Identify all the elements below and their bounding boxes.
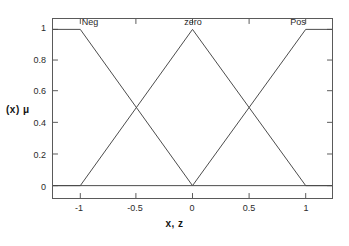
y-tick-label-1: 1 <box>20 23 46 33</box>
y-tick-label-0.6: 0.6 <box>20 86 46 96</box>
x-tick-label-0: 0 <box>189 203 194 213</box>
curve-pos <box>53 29 332 185</box>
curve-label-neg: Neg <box>82 17 99 27</box>
y-tick-label-0.8: 0.8 <box>20 55 46 65</box>
x-tick-label--1: -1 <box>75 203 83 213</box>
y-axis-title: (x) μ <box>6 104 30 115</box>
curve-neg <box>53 29 332 185</box>
curve-label-pos: Pos <box>290 17 306 27</box>
x-tick-label--0.5: -0.5 <box>127 203 143 213</box>
axis-ticks <box>53 19 332 198</box>
y-tick-label-0.4: 0.4 <box>20 118 46 128</box>
x-axis-title: x, z <box>0 218 349 229</box>
figure-canvas: 1 0.8 0.6 0.4 0.2 0 -1 -0.5 0 0.5 1 x, z… <box>0 0 349 246</box>
curve-label-zero: zero <box>184 17 202 27</box>
curve-zero <box>53 29 332 185</box>
y-tick-label-0.2: 0.2 <box>20 150 46 160</box>
y-tick-label-0: 0 <box>20 182 46 192</box>
x-tick-label-0.5: 0.5 <box>243 203 256 213</box>
membership-curves <box>53 19 332 198</box>
x-tick-label-1: 1 <box>303 203 308 213</box>
plot-area: Neg zero Pos <box>52 18 333 199</box>
